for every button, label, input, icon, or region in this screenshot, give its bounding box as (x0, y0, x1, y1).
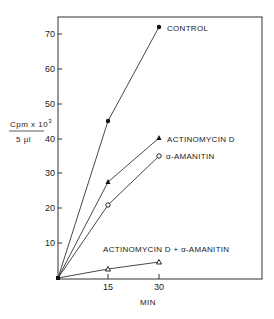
plot-frame (58, 17, 262, 279)
y-axis-ticks (58, 34, 62, 243)
amanitin-line (58, 156, 159, 278)
control-marker-30 (157, 25, 161, 29)
y-tick-50: 50 (45, 99, 55, 109)
y-axis-label-numerator: Cpm x 103 (10, 118, 52, 129)
control-line (58, 27, 159, 278)
control-label: CONTROL (167, 24, 208, 33)
amanitin-marker-30 (157, 154, 161, 158)
y-tick-40: 40 (45, 134, 55, 144)
y-tick-60: 60 (45, 64, 55, 74)
x-tick-15: 15 (103, 282, 113, 292)
actinomycin-marker-15 (106, 179, 111, 184)
control-marker-15 (106, 119, 110, 123)
x-axis-ticks (108, 274, 159, 279)
actinomycin-marker-30 (157, 135, 162, 140)
x-axis-label: MIN (140, 298, 156, 307)
y-axis-tick-labels: 10 20 30 40 50 60 70 (45, 29, 55, 248)
amanitin-marker-15 (106, 203, 110, 207)
y-tick-30: 30 (45, 168, 55, 178)
combined-marker-15 (106, 267, 111, 272)
combined-marker-30 (157, 260, 162, 265)
actinomycin-line (58, 138, 159, 278)
combined-label: ACTINOMYCIN D + α-AMANITIN (103, 245, 229, 254)
amanitin-label: α-AMANITIN (166, 152, 215, 161)
actinomycin-label: ACTINOMYCIN D (167, 135, 235, 144)
y-tick-70: 70 (45, 29, 55, 39)
chart: 10 20 30 40 50 60 70 15 30 MIN Cpm x 103… (0, 0, 274, 319)
x-tick-30: 30 (154, 282, 164, 292)
y-tick-20: 20 (45, 203, 55, 213)
series-lines (58, 27, 159, 278)
origin-marker (56, 276, 60, 280)
y-axis-label-denominator: 5 µl (16, 135, 31, 144)
y-tick-10: 10 (45, 238, 55, 248)
